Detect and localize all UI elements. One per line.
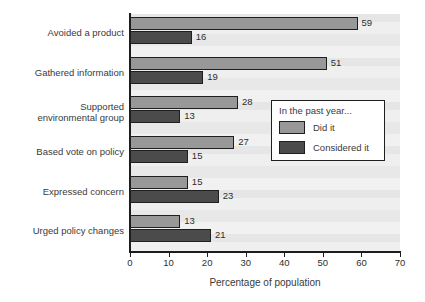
legend-label-considered-it: Considered it xyxy=(313,141,369,154)
x-tick-label: 10 xyxy=(163,257,174,269)
x-tick-label: 40 xyxy=(279,257,290,269)
bar-considered xyxy=(130,71,203,84)
bar-did xyxy=(130,57,327,70)
bar-group: 5916 xyxy=(0,14,425,54)
bar-value-label: 23 xyxy=(223,189,234,202)
bar-did xyxy=(130,96,238,109)
legend-swatch-considered-it xyxy=(279,141,305,154)
bar-considered xyxy=(130,31,192,44)
legend-label-did-it: Did it xyxy=(313,121,335,134)
bar-chart: Avoided a productGathered informationSup… xyxy=(0,0,425,302)
x-axis-title: Percentage of population xyxy=(130,277,400,288)
bar-considered xyxy=(130,190,219,203)
bar-did xyxy=(130,136,234,149)
bar-group: 1321 xyxy=(0,212,425,252)
bar-value-label: 59 xyxy=(362,16,373,29)
x-tick-label: 70 xyxy=(395,257,406,269)
bar-value-label: 19 xyxy=(207,70,218,83)
x-tick-label: 30 xyxy=(240,257,251,269)
bar-group: 5119 xyxy=(0,54,425,94)
bar-value-label: 28 xyxy=(242,95,253,108)
bar-value-label: 13 xyxy=(184,109,195,122)
bar-considered xyxy=(130,150,188,163)
bar-value-label: 15 xyxy=(192,175,203,188)
bar-did xyxy=(130,215,180,228)
bar-did xyxy=(130,176,188,189)
bar-value-label: 15 xyxy=(192,149,203,162)
bar-value-label: 13 xyxy=(184,214,195,227)
bar-did xyxy=(130,17,358,30)
legend-swatch-did-it xyxy=(279,121,305,134)
bar-group: 1523 xyxy=(0,173,425,213)
x-tick-label: 60 xyxy=(356,257,367,269)
bar-value-label: 21 xyxy=(215,228,226,241)
bar-value-label: 51 xyxy=(331,56,342,69)
x-tick-label: 0 xyxy=(127,257,132,269)
bar-considered xyxy=(130,110,180,123)
bar-considered xyxy=(130,229,211,242)
x-tick-label: 20 xyxy=(202,257,213,269)
x-tick-label: 50 xyxy=(318,257,329,269)
chart-legend: In the past year... Did it Considered it xyxy=(271,100,385,161)
bar-value-label: 16 xyxy=(196,30,207,43)
bar-value-label: 27 xyxy=(238,135,249,148)
legend-title: In the past year... xyxy=(279,105,352,116)
